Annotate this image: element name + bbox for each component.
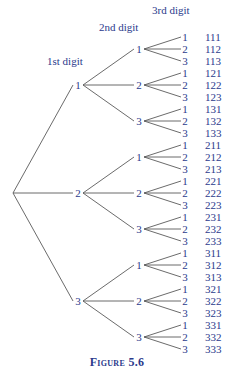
level3-node: 2 [181, 187, 189, 199]
outcome-label: 133 [205, 127, 222, 139]
level2-node: 3 [135, 223, 143, 235]
level3-node: 2 [181, 43, 189, 55]
outcome-label: 332 [205, 331, 222, 343]
outcome-label: 132 [205, 115, 222, 127]
outcome-label: 331 [205, 319, 222, 331]
outcome-label: 313 [205, 271, 222, 283]
header-3rd-digit: 3rd digit [152, 4, 190, 16]
outcome-label: 321 [205, 283, 222, 295]
outcome-label: 222 [205, 187, 222, 199]
outcome-label: 233 [205, 235, 222, 247]
outcome-label: 121 [205, 67, 222, 79]
level3-node: 3 [181, 271, 189, 283]
level3-node: 1 [181, 103, 189, 115]
level3-node: 1 [181, 31, 189, 43]
level1-node: 1 [74, 79, 82, 91]
level3-node: 2 [181, 259, 189, 271]
outcome-label: 223 [205, 199, 222, 211]
tree-edges [0, 0, 234, 372]
level3-node: 1 [181, 175, 189, 187]
level3-node: 2 [181, 115, 189, 127]
outcome-label: 221 [205, 175, 222, 187]
level2-node: 1 [135, 151, 143, 163]
level3-node: 3 [181, 343, 189, 355]
header-1st-digit: 1st digit [47, 55, 83, 67]
outcome-label: 212 [205, 151, 222, 163]
outcome-label: 131 [205, 103, 222, 115]
outcome-label: 112 [205, 43, 221, 55]
outcome-label: 333 [205, 343, 222, 355]
outcome-label: 211 [205, 139, 221, 151]
level3-node: 3 [181, 199, 189, 211]
outcome-label: 323 [205, 307, 222, 319]
level2-node: 1 [135, 43, 143, 55]
level2-node: 1 [135, 259, 143, 271]
level2-node: 3 [135, 331, 143, 343]
outcome-label: 322 [205, 295, 222, 307]
level3-node: 1 [181, 247, 189, 259]
level2-node: 2 [135, 187, 143, 199]
level3-node: 3 [181, 307, 189, 319]
figure-caption: Figure 5.6 [0, 355, 234, 370]
level3-node: 1 [181, 211, 189, 223]
outcome-label: 231 [205, 211, 222, 223]
level3-node: 1 [181, 67, 189, 79]
outcome-label: 312 [205, 259, 222, 271]
level3-node: 1 [181, 319, 189, 331]
outcome-label: 232 [205, 223, 222, 235]
level3-node: 2 [181, 151, 189, 163]
level3-node: 3 [181, 163, 189, 175]
outcome-label: 113 [205, 55, 221, 67]
outcome-label: 123 [205, 91, 222, 103]
level2-node: 2 [135, 79, 143, 91]
outcome-label: 213 [205, 163, 222, 175]
level3-node: 3 [181, 55, 189, 67]
outcome-label: 311 [205, 247, 221, 259]
outcome-label: 111 [205, 31, 221, 43]
level3-node: 2 [181, 79, 189, 91]
level3-node: 2 [181, 295, 189, 307]
level2-node: 2 [135, 295, 143, 307]
tree-diagram: 1st digit 2nd digit 3rd digit 1111112112… [0, 0, 234, 372]
level3-node: 1 [181, 283, 189, 295]
level3-node: 3 [181, 127, 189, 139]
level3-node: 3 [181, 235, 189, 247]
level3-node: 2 [181, 223, 189, 235]
level3-node: 1 [181, 139, 189, 151]
level1-node: 3 [74, 295, 82, 307]
level1-node: 2 [74, 187, 82, 199]
level3-node: 2 [181, 331, 189, 343]
level3-node: 3 [181, 91, 189, 103]
header-2nd-digit: 2nd digit [99, 21, 138, 33]
level2-node: 3 [135, 115, 143, 127]
outcome-label: 122 [205, 79, 222, 91]
